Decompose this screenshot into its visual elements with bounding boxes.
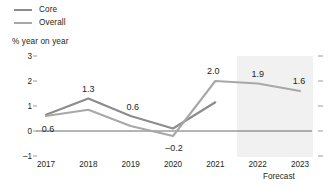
x-tick-label: 2021 bbox=[206, 160, 224, 169]
y-tick-mark bbox=[33, 56, 37, 57]
chart-legend: Core Overall bbox=[14, 3, 66, 29]
y-tick-label: 1 bbox=[27, 102, 32, 111]
y-tick-label: 2 bbox=[27, 77, 32, 86]
y-tick-label: 0 bbox=[27, 127, 32, 136]
y-tick-label: 3 bbox=[27, 52, 32, 61]
y-tick-mark-right bbox=[318, 106, 323, 107]
legend-item-overall: Overall bbox=[14, 16, 66, 29]
y-tick-mark-right bbox=[318, 131, 323, 132]
y-axis-unit-label: % year on year bbox=[12, 37, 68, 46]
y-tick-mark bbox=[33, 81, 37, 82]
series-lines bbox=[36, 56, 312, 156]
inflation-line-chart: Core Overall % year on year 3210–1 20172… bbox=[0, 0, 331, 188]
x-tick-label: 2022 bbox=[249, 160, 267, 169]
y-tick-mark bbox=[33, 106, 37, 107]
y-tick-mark bbox=[33, 131, 37, 132]
legend-swatch-core bbox=[14, 9, 32, 11]
y-tick-mark-right bbox=[318, 56, 323, 57]
y-tick-mark-right bbox=[318, 81, 323, 82]
data-point-label: 1.3 bbox=[82, 84, 95, 94]
x-tick-label: 2019 bbox=[122, 160, 140, 169]
data-point-label: –0.2 bbox=[165, 143, 183, 153]
legend-label-core: Core bbox=[39, 3, 57, 16]
x-tick-label: 2017 bbox=[37, 160, 55, 169]
y-tick-mark-right bbox=[318, 156, 323, 157]
x-tick-label: 2020 bbox=[164, 160, 182, 169]
data-point-label: 1.9 bbox=[251, 69, 264, 79]
data-point-label: 0.6 bbox=[42, 124, 55, 134]
legend-swatch-overall bbox=[14, 22, 32, 24]
forecast-caption: Forecast bbox=[263, 172, 295, 181]
data-point-label: 0.6 bbox=[126, 102, 139, 112]
data-point-label: 1.6 bbox=[293, 76, 306, 86]
data-point-label: 2.0 bbox=[207, 66, 220, 76]
x-tick-label: 2018 bbox=[79, 160, 97, 169]
legend-item-core: Core bbox=[14, 3, 66, 16]
y-tick-mark bbox=[33, 156, 37, 157]
x-tick-label: 2023 bbox=[291, 160, 309, 169]
y-tick-label: –1 bbox=[23, 152, 32, 161]
plot-area: 3210–1 2017201820192020202120222023 0.61… bbox=[36, 56, 312, 156]
legend-label-overall: Overall bbox=[39, 16, 66, 29]
